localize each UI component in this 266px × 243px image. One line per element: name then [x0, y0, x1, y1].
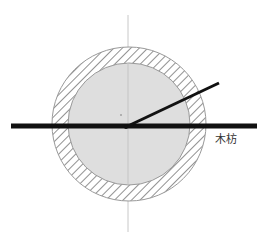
cross-section-diagram: 木枋 — [0, 0, 266, 243]
reference-dot — [120, 114, 122, 116]
beam-label: 木枋 — [215, 132, 237, 146]
center-pivot — [124, 125, 128, 129]
